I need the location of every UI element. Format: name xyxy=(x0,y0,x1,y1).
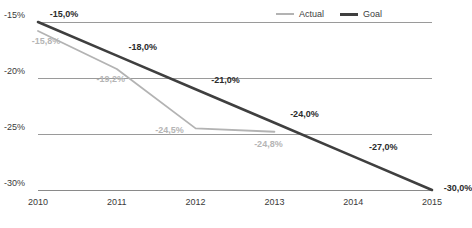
chart-legend: Actual Goal xyxy=(276,6,382,22)
series-line-goal xyxy=(38,22,432,190)
y-tick-label: -30% xyxy=(4,179,25,188)
data-label-goal-2015: -30,0% xyxy=(444,184,472,193)
legend-swatch-actual-icon xyxy=(276,13,294,15)
y-tick-label: -20% xyxy=(4,67,25,76)
legend-swatch-goal-icon xyxy=(340,13,358,16)
data-label-goal-2012: -21,0% xyxy=(211,76,240,85)
data-label-goal-2014: -27,0% xyxy=(369,143,398,152)
series-layer xyxy=(38,22,432,190)
x-tick-label: 2013 xyxy=(264,198,284,207)
y-tick-label: -25% xyxy=(4,123,25,132)
data-label-actual-2011: -19,2% xyxy=(97,75,126,84)
x-axis-line xyxy=(38,190,432,191)
data-label-actual-2013: -24,8% xyxy=(254,139,283,148)
x-tick-label: 2015 xyxy=(422,198,442,207)
data-label-actual-2012: -24,5% xyxy=(155,126,184,135)
x-tick-label: 2011 xyxy=(107,198,126,207)
x-tick-label: 2012 xyxy=(186,198,206,207)
legend-item-actual[interactable]: Actual xyxy=(276,10,324,19)
legend-label-goal: Goal xyxy=(363,10,382,19)
legend-label-actual: Actual xyxy=(299,10,324,19)
data-label-goal-2010: -15,0% xyxy=(50,10,79,19)
y-tick-label: -15% xyxy=(4,11,25,20)
legend-item-goal[interactable]: Goal xyxy=(340,10,382,19)
data-label-goal-2011: -18,0% xyxy=(129,42,158,51)
data-label-goal-2013: -24,0% xyxy=(290,109,319,118)
x-tick-label: 2010 xyxy=(28,198,48,207)
x-tick-label: 2014 xyxy=(343,198,363,207)
data-label-actual-2010: -15,8% xyxy=(32,36,61,45)
